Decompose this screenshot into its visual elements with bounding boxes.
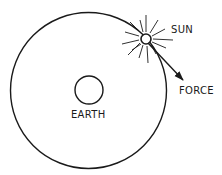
sun-label: SUN (171, 24, 193, 35)
sun-circle (141, 34, 151, 44)
force-label: FORCE (179, 85, 214, 96)
earth-label: EARTH (71, 109, 106, 120)
orbit-diagram: EARTH SUN FORCE (0, 0, 222, 175)
earth-circle (75, 76, 103, 104)
